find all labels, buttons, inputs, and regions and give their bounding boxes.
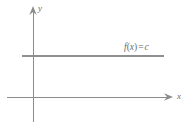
y-axis-label: y [38,4,42,13]
x-axis-label: x [177,92,181,101]
equals-sign: = [137,42,144,52]
constant-c: c [145,42,149,52]
function-equation-label: f(x)=c [124,43,149,53]
constant-function-figure: y x f(x)=c [0,0,191,126]
figure-canvas [0,0,191,126]
